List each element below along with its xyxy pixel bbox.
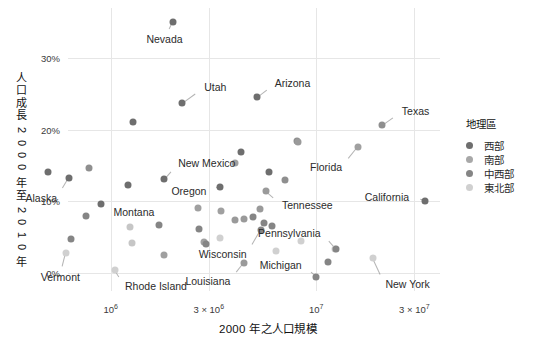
data-point[interactable]: [195, 204, 202, 211]
data-point[interactable]: [44, 169, 51, 176]
y-axis-label-char: 長: [14, 109, 30, 121]
plot-area: NevadaArizonaUtahTexasFloridaAlaskaNew M…: [68, 8, 440, 291]
data-point[interactable]: [218, 207, 225, 214]
y-tick-label: 20%: [41, 124, 60, 135]
legend-item-東北部[interactable]: 東北部: [466, 180, 536, 194]
data-point[interactable]: [378, 122, 385, 129]
data-point[interactable]: [126, 223, 133, 230]
data-point[interactable]: [169, 18, 176, 25]
x-tick-label: 106: [103, 303, 117, 315]
data-point[interactable]: [129, 239, 136, 246]
data-point[interactable]: [203, 240, 210, 247]
legend-item-南部[interactable]: 南部: [466, 152, 536, 166]
data-point[interactable]: [422, 198, 429, 205]
y-tick-label: 0%: [46, 268, 60, 279]
data-point[interactable]: [237, 149, 244, 156]
data-point[interactable]: [240, 216, 247, 223]
legend-item-label: 南部: [484, 152, 504, 167]
point-label-rhodeisland: Rhode Island: [125, 281, 187, 292]
point-label-utah: Utah: [204, 82, 226, 93]
data-point[interactable]: [253, 93, 260, 100]
y-axis-label-char: 0: [16, 159, 28, 175]
gridline-vertical: [414, 8, 415, 291]
point-label-texas: Texas: [402, 106, 429, 117]
gridline-horizontal: [68, 130, 440, 131]
point-label-newyork: New York: [385, 279, 429, 290]
data-point[interactable]: [332, 246, 339, 253]
y-tick-label: 30%: [41, 53, 60, 64]
data-point[interactable]: [63, 250, 70, 257]
scatter-chart-figure: NevadaArizonaUtahTexasFloridaAlaskaNew M…: [0, 0, 536, 349]
point-label-pennsylvania: Pennsylvania: [258, 228, 320, 239]
data-point[interactable]: [85, 165, 92, 172]
data-point[interactable]: [232, 217, 239, 224]
data-point[interactable]: [370, 255, 377, 262]
legend-title: 地理區: [466, 116, 536, 131]
data-point[interactable]: [295, 138, 302, 145]
gridline-horizontal: [68, 58, 440, 59]
y-axis-label-char: 成: [14, 97, 30, 109]
legend-item-label: 西部: [484, 138, 504, 153]
point-label-arizona: Arizona: [275, 78, 311, 89]
x-tick-label: 107: [309, 303, 323, 315]
point-label-montana: Montana: [113, 207, 154, 218]
data-point[interactable]: [282, 176, 289, 183]
point-label-wisconsin: Wisconsin: [199, 249, 247, 260]
data-point[interactable]: [217, 184, 224, 191]
gridline-vertical: [316, 8, 317, 291]
data-point[interactable]: [261, 219, 268, 226]
gridline-horizontal: [68, 273, 440, 274]
point-label-michigan: Michigan: [260, 260, 302, 271]
point-label-florida: Florida: [310, 162, 342, 173]
data-point[interactable]: [155, 222, 162, 229]
y-axis-label-char: 年: [14, 177, 30, 189]
y-axis-label-char: 至: [14, 189, 30, 201]
legend-item-label: 東北部: [484, 180, 514, 195]
data-point[interactable]: [241, 260, 248, 267]
x-tick-label: 3 × 107: [399, 303, 430, 315]
data-point[interactable]: [68, 236, 75, 243]
data-point[interactable]: [355, 143, 362, 150]
point-label-nevada: Nevada: [146, 34, 182, 45]
data-point[interactable]: [312, 274, 319, 281]
data-point[interactable]: [256, 205, 263, 212]
point-label-oregon: Oregon: [171, 186, 206, 197]
data-point[interactable]: [179, 99, 186, 106]
x-axis-label: 2000 年之人口規模: [0, 320, 536, 336]
y-tick-label: 10%: [41, 196, 60, 207]
y-axis-label-char: 口: [14, 84, 30, 96]
data-point[interactable]: [249, 214, 256, 221]
data-point[interactable]: [98, 200, 105, 207]
data-point[interactable]: [112, 267, 119, 274]
data-point[interactable]: [272, 247, 279, 254]
data-point[interactable]: [216, 234, 223, 241]
legend-swatch-icon: [466, 142, 473, 149]
x-tick-label: 3 × 106: [193, 303, 224, 315]
point-label-newmexico: New Mexico: [178, 158, 235, 169]
y-axis-label-char: 人: [14, 72, 30, 84]
y-axis-label-char: 年: [14, 256, 30, 268]
data-point[interactable]: [124, 181, 131, 188]
point-label-california: California: [365, 192, 409, 203]
data-point[interactable]: [196, 226, 203, 233]
data-point[interactable]: [130, 118, 137, 125]
gridline-vertical: [111, 8, 112, 291]
legend-item-label: 中西部: [484, 166, 514, 181]
data-point[interactable]: [161, 175, 168, 182]
data-point[interactable]: [262, 187, 269, 194]
data-point[interactable]: [324, 258, 331, 265]
data-point[interactable]: [160, 252, 167, 259]
legend-swatch-icon: [466, 184, 473, 191]
legend-item-西部[interactable]: 西部: [466, 138, 536, 152]
legend: 地理區 西部南部中西部東北部: [466, 116, 536, 194]
legend-swatch-icon: [466, 156, 473, 163]
legend-swatch-icon: [466, 170, 473, 177]
point-label-tennessee: Tennessee: [282, 200, 333, 211]
y-axis-label-char: 0: [16, 239, 28, 255]
data-point[interactable]: [66, 174, 73, 181]
data-point[interactable]: [82, 213, 89, 220]
point-label-louisiana: Louisiana: [185, 276, 230, 287]
legend-item-中西部[interactable]: 中西部: [466, 166, 536, 180]
data-point[interactable]: [265, 169, 272, 176]
y-axis-label: 人口成長2000年至2010年: [14, 72, 30, 269]
